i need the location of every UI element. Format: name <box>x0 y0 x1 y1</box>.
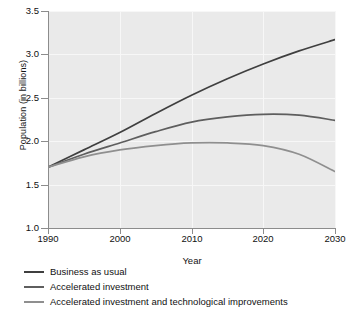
x-tick-label: 2020 <box>243 233 283 244</box>
y-tick-label: 1.0 <box>14 222 39 233</box>
legend-label: Accelerated investment <box>50 281 149 292</box>
legend-item-3[interactable]: Accelerated investment and technological… <box>24 294 352 309</box>
chart-legend: Business as usualAccelerated investmentA… <box>24 264 352 309</box>
legend-item-1[interactable]: Business as usual <box>24 264 352 279</box>
y-tick-mark <box>41 141 48 142</box>
y-tick-mark <box>41 228 48 229</box>
legend-item-2[interactable]: Accelerated investment <box>24 279 352 294</box>
y-tick-label: 1.5 <box>14 179 39 190</box>
legend-line-swatch-icon <box>24 286 44 288</box>
series-curves <box>48 11 335 228</box>
x-tick-label: 2000 <box>100 233 140 244</box>
y-tick-label: 3.5 <box>14 5 39 16</box>
y-tick-label: 2.0 <box>14 135 39 146</box>
legend-label: Accelerated investment and technological… <box>50 296 288 307</box>
series-line-2 <box>48 114 335 167</box>
x-tick-label: 1990 <box>28 233 68 244</box>
legend-label: Business as usual <box>50 266 127 277</box>
x-tick-label: 2010 <box>172 233 212 244</box>
y-tick-label: 3.0 <box>14 48 39 59</box>
x-tick-label: 2030 <box>315 233 352 244</box>
y-tick-mark <box>41 54 48 55</box>
gridline-vertical <box>335 11 336 228</box>
y-tick-mark <box>41 98 48 99</box>
legend-line-swatch-icon <box>24 301 44 303</box>
series-line-1 <box>48 40 335 168</box>
y-tick-label: 2.5 <box>14 92 39 103</box>
legend-line-swatch-icon <box>24 271 44 273</box>
y-tick-mark <box>41 11 48 12</box>
y-tick-mark <box>41 185 48 186</box>
